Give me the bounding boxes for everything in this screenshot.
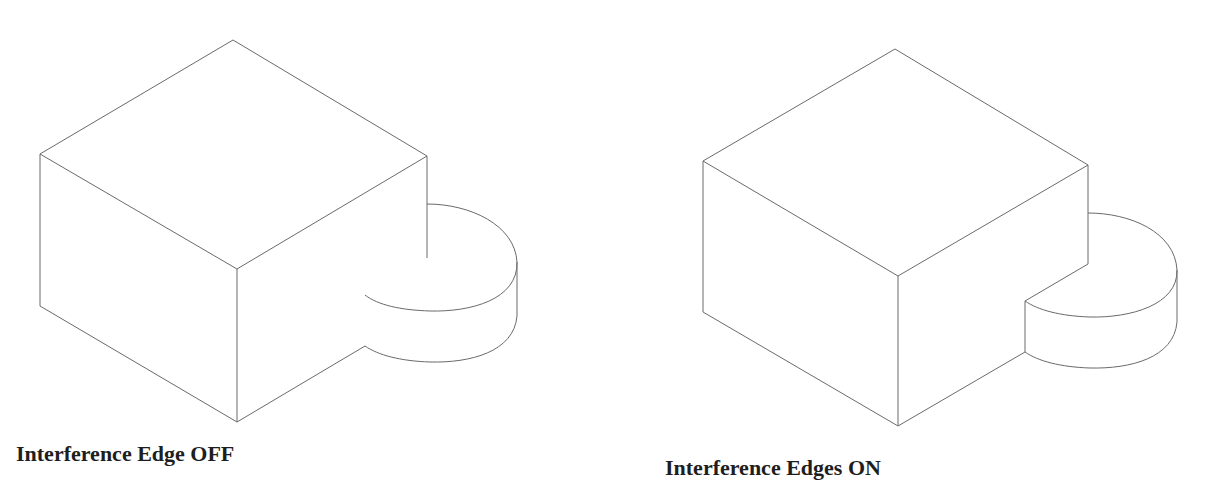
left-cylinder-bottom-arc bbox=[365, 316, 517, 362]
right-interference-edge-horizontal bbox=[1025, 264, 1088, 301]
right-box-bottom-left-edge bbox=[703, 312, 898, 426]
left-box-top-face bbox=[40, 40, 427, 269]
right-figure-box-with-cylinder bbox=[703, 49, 1177, 426]
right-cylinder-top-arc bbox=[1025, 213, 1177, 317]
left-box-bottom-left-edge bbox=[40, 306, 237, 422]
caption-interference-edges-on: Interference Edges ON bbox=[665, 455, 881, 481]
right-cylinder-bottom-arc bbox=[1025, 322, 1177, 368]
figures-canvas bbox=[0, 0, 1214, 499]
caption-interference-edge-off: Interference Edge OFF bbox=[16, 441, 234, 467]
left-cylinder-top-arc bbox=[365, 204, 517, 311]
left-box-bottom-right-edge bbox=[237, 346, 365, 422]
right-box-bottom-right-edge bbox=[898, 352, 1025, 426]
left-figure-box-with-cylinder bbox=[40, 40, 517, 422]
right-box-top-face bbox=[703, 49, 1088, 276]
